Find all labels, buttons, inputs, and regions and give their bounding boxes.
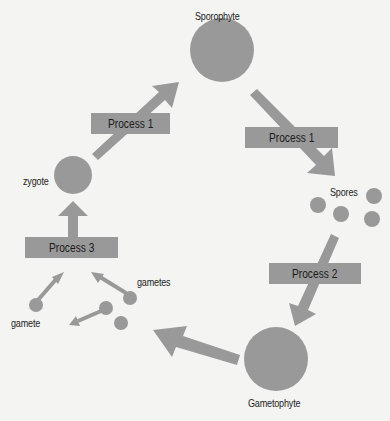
process-label: Process 1 xyxy=(269,131,314,145)
label-zygote: zygote xyxy=(23,175,49,187)
process-label: Process 1 xyxy=(108,117,153,131)
label-gametophyte: Gametophyte xyxy=(248,397,300,409)
process-label: Process 3 xyxy=(49,241,94,255)
label-gamete: gamete xyxy=(11,317,40,329)
diagram-graphics xyxy=(0,0,390,421)
gamete-dot xyxy=(114,316,128,330)
sporophyte-circle xyxy=(190,18,254,82)
life-cycle-diagram: Sporophyte Spores Gametophyte gametes ga… xyxy=(0,0,390,421)
arrow-gametes-to-zygote-icon xyxy=(58,201,88,238)
spore-dot xyxy=(366,188,382,204)
label-spores: Spores xyxy=(330,186,358,198)
gametophyte-circle xyxy=(244,327,308,391)
spore-dot xyxy=(310,197,326,213)
gamete-arrows xyxy=(38,272,126,326)
process-label: Process 2 xyxy=(292,267,337,281)
process-box-gametes-to-zygote: Process 3 xyxy=(25,237,118,258)
process-box-zygote-to-sporophyte: Process 1 xyxy=(91,113,170,134)
gamete-dot xyxy=(29,298,43,312)
arrow-gametophyte-to-gametes-icon xyxy=(153,326,240,365)
label-gametes: gametes xyxy=(137,276,170,288)
spore-dot xyxy=(364,211,380,227)
process-box-sporophyte-to-spores: Process 1 xyxy=(245,127,338,148)
zygote-circle xyxy=(54,156,92,194)
spore-dot xyxy=(333,206,349,222)
process-box-spores-to-gametophyte: Process 2 xyxy=(269,263,361,284)
label-sporophyte: Sporophyte xyxy=(195,10,239,22)
